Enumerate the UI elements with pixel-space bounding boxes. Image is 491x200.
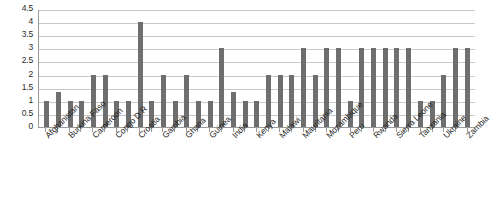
y-axis-tick-label: 3: [28, 42, 33, 52]
bar-slot: [216, 10, 228, 127]
bar-slot: [403, 10, 415, 127]
bar-slot: [193, 10, 205, 127]
y-axis-tick-label: 1: [28, 95, 33, 105]
y-axis-tick-label: 1.5: [22, 82, 33, 92]
bar-slot: [204, 10, 216, 127]
bar-slot: [158, 10, 170, 127]
bar-slot: [450, 10, 462, 127]
bar-slot: [41, 10, 53, 127]
bar-slot: [251, 10, 263, 127]
y-axis-tick-label: 0.5: [22, 108, 33, 118]
bar: [278, 75, 283, 127]
bar-slot: [368, 10, 380, 127]
bar: [254, 101, 259, 127]
bar-slot: [239, 10, 251, 127]
x-axis-category-labels: AfghanistanBurkina FasoCameroonCongo D R…: [38, 133, 475, 200]
y-axis-tick-label: 2.5: [22, 55, 33, 65]
bar: [465, 48, 470, 127]
bar-slot: [333, 10, 345, 127]
bar-slot: [461, 10, 473, 127]
bar: [371, 48, 376, 127]
bar-slot: [169, 10, 181, 127]
bar-series: [39, 10, 475, 127]
bar-slot: [181, 10, 193, 127]
bar: [161, 75, 166, 127]
bar-slot: [123, 10, 135, 127]
y-axis-tick-label: 4: [28, 16, 33, 26]
y-axis-tick-label: 2: [28, 69, 33, 79]
plot-area: [38, 10, 475, 128]
bar-slot: [263, 10, 275, 127]
y-axis-tick-label: 0: [28, 121, 33, 131]
bar-slot: [228, 10, 240, 127]
bar-slot: [274, 10, 286, 127]
bar-slot: [379, 10, 391, 127]
bar-slot: [391, 10, 403, 127]
bar-slot: [298, 10, 310, 127]
bar: [359, 48, 364, 127]
bar-slot: [286, 10, 298, 127]
bar: [208, 101, 213, 127]
bar-slot: [309, 10, 321, 127]
bar: [44, 101, 49, 127]
y-axis-tick-label: 4.5: [22, 3, 33, 13]
bar-slot: [53, 10, 65, 127]
y-axis-tick-labels: 00.511.522.533.544.5: [0, 8, 36, 130]
y-axis-tick-label: 3.5: [22, 29, 33, 39]
bar: [301, 48, 306, 127]
